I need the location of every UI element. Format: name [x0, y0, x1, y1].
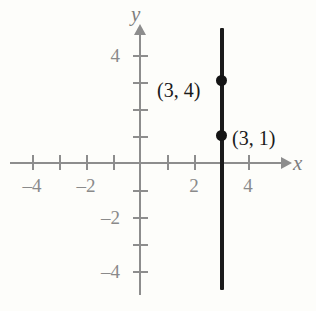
- x-axis-tick: [113, 155, 115, 170]
- x-axis-label: x: [293, 153, 302, 174]
- y-axis-tick: [133, 136, 148, 138]
- y-axis-tick: [133, 82, 148, 84]
- data-point-label-3-1: (3, 1): [232, 128, 275, 148]
- y-axis-tick: [133, 190, 148, 192]
- x-axis-tick: [248, 155, 250, 170]
- y-axis-tick: [133, 217, 148, 219]
- x-axis-tick: [59, 155, 61, 170]
- x-axis-tick: [32, 155, 34, 170]
- y-tick-label-4: 4: [74, 46, 120, 65]
- y-tick-label-minus-2: –2: [74, 208, 120, 227]
- x-tick-label-2: 2: [174, 176, 214, 195]
- data-point-3-4: [216, 75, 227, 86]
- y-axis-tick: [133, 271, 148, 273]
- data-point-label-3-4: (3, 4): [157, 80, 200, 100]
- y-axis-tick: [133, 244, 148, 246]
- y-tick-label-minus-4: –4: [74, 262, 120, 281]
- x-axis-tick: [86, 155, 88, 170]
- x-tick-label-4: 4: [228, 176, 268, 195]
- data-point-3-1: [216, 130, 227, 141]
- x-axis-tick: [194, 155, 196, 170]
- plotted-line-x-equals-3: [220, 28, 224, 290]
- x-tick-label-minus-2: –2: [66, 176, 106, 195]
- y-axis-line: [139, 30, 141, 295]
- y-axis-tick: [133, 109, 148, 111]
- x-tick-label-minus-4: –4: [12, 176, 52, 195]
- y-axis-tick: [133, 55, 148, 57]
- x-axis-line: [10, 162, 287, 164]
- y-axis-label: y: [131, 4, 140, 25]
- coordinate-plane-figure: –4 –2 2 4 4 –2 –4 x y (3, 4) (3, 1): [0, 0, 316, 311]
- x-axis-tick: [167, 155, 169, 170]
- x-axis-arrow-icon: [281, 157, 292, 169]
